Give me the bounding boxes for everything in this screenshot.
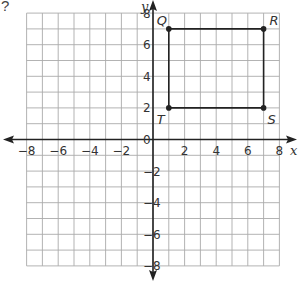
x-tick-label: 6 xyxy=(244,144,252,158)
y-tick-label: 2 xyxy=(143,101,151,115)
x-tick-label: −8 xyxy=(18,144,36,158)
x-tick-label: 8 xyxy=(276,144,284,158)
y-tick-label: −8 xyxy=(143,259,161,273)
x-tick-label: −6 xyxy=(49,144,67,158)
point-label-s: S xyxy=(268,112,276,127)
point-r xyxy=(261,26,267,32)
x-axis-label: x xyxy=(290,143,298,158)
point-s xyxy=(261,105,267,111)
x-tick-label: 2 xyxy=(181,144,189,158)
x-tick-label: −2 xyxy=(113,144,131,158)
y-axis-label: y xyxy=(140,0,149,14)
point-t xyxy=(166,105,172,111)
x-tick-label: 4 xyxy=(212,144,220,158)
y-tick-label: −4 xyxy=(143,196,161,210)
y-tick-label: 0 xyxy=(143,133,151,147)
x-tick-label: −4 xyxy=(81,144,99,158)
point-label-t: T xyxy=(157,112,166,127)
y-tick-label: 6 xyxy=(143,38,151,52)
rectangle-qrst: QRST xyxy=(157,13,279,127)
y-tick-label: −2 xyxy=(143,165,161,179)
point-label-q: Q xyxy=(157,13,167,28)
point-label-r: R xyxy=(270,13,279,28)
y-tick-label: −6 xyxy=(143,228,161,242)
y-tick-label: 4 xyxy=(143,70,151,84)
coordinate-plane: −8−6−4−22468−8−6−4−202468 QRST x y xyxy=(0,0,301,282)
